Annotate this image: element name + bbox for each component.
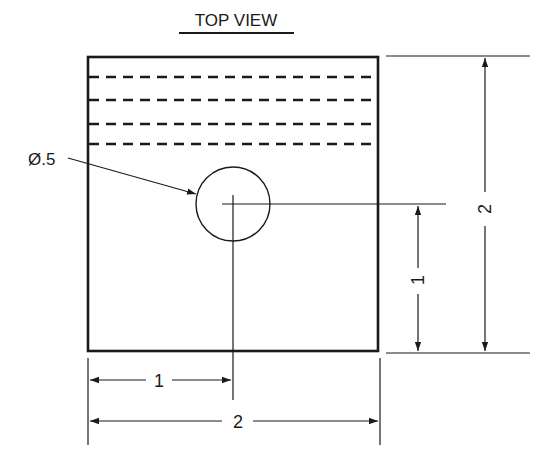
hole-callout: Ø.5 bbox=[28, 150, 196, 194]
dimension-value: 1 bbox=[154, 371, 164, 391]
hidden-lines bbox=[89, 77, 377, 144]
top-view-drawing: TOP VIEW Ø.5 2 1 1 bbox=[0, 0, 558, 466]
view-title: TOP VIEW bbox=[179, 11, 294, 33]
dimension-horizontal-hole: 1 bbox=[90, 371, 231, 391]
dimension-horizontal-overall: 2 bbox=[90, 412, 378, 432]
dimension-value: 2 bbox=[233, 412, 243, 432]
dimension-vertical-overall: 2 bbox=[475, 58, 495, 351]
dimension-value: 2 bbox=[475, 204, 495, 214]
view-title-text: TOP VIEW bbox=[195, 11, 278, 30]
dimension-value: 1 bbox=[408, 275, 428, 285]
dimension-vertical-hole: 1 bbox=[408, 206, 428, 351]
hole-callout-text: Ø.5 bbox=[28, 150, 55, 169]
